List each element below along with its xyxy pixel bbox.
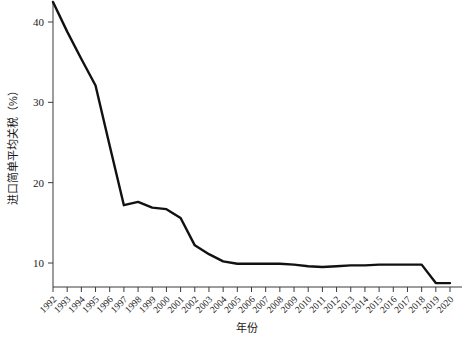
chart-canvas: 10203040 1992199319941995199619971998199… [0, 0, 474, 342]
y-tick-label: 10 [33, 257, 45, 269]
y-axis-title: 进口简单平均关税（%） [6, 85, 19, 205]
y-tick-label: 20 [33, 177, 45, 189]
y-tick-label: 30 [33, 96, 45, 108]
x-axis-title: 年份 [236, 321, 258, 334]
y-tick-label: 40 [33, 16, 45, 28]
tariff-line-chart: 10203040 1992199319941995199619971998199… [0, 0, 474, 342]
